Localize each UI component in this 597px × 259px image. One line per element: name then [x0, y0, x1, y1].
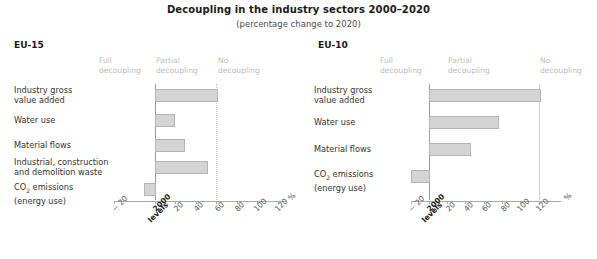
xtick-label-eu10-80: 80 — [499, 200, 512, 213]
panel-eu10: EU-10 Full decoupling Partial decoupling… — [300, 38, 597, 253]
zone-label-no-decoupling: No decoupling — [540, 56, 582, 75]
co2-text-pre: CO — [14, 182, 26, 192]
co2-text-pre: CO — [314, 169, 326, 179]
cat-label-eu15-waste: Industrial, construction and demolition … — [14, 157, 154, 177]
bar-eu10-industry-gross-value-added — [429, 89, 541, 102]
xtick-label-eu10-20: 20 — [444, 200, 457, 213]
cat-label-eu10-co2: CO2 emissions (energy use) — [314, 169, 429, 193]
chart-subtitle: (percentage change to 2020) — [0, 19, 597, 29]
chart-title: Decoupling in the industry sectors 2000–… — [0, 4, 597, 15]
zone-label-full-decoupling: Full decoupling — [380, 56, 422, 75]
xtick-label-eu15-40: 40 — [192, 200, 205, 213]
xtick-label-eu10-40: 40 — [462, 200, 475, 213]
cat-label-eu10-material: Material flows — [314, 144, 429, 154]
cat-label-eu15-material: Material flows — [14, 140, 144, 150]
xtick-label-eu15-20: 20 — [172, 200, 185, 213]
panel-eu10-xaxis: − 20 2000 levels 20 40 60 80 100 120 % — [300, 201, 597, 253]
cat-label-eu10-water: Water use — [314, 117, 429, 127]
bar-eu15-co2-emissions — [144, 183, 156, 196]
xtick-label-eu15-80: 80 — [233, 200, 246, 213]
cat-label-eu15-gva: Industry gross value added — [14, 85, 144, 105]
xtick-label-eu10-60: 60 — [480, 200, 493, 213]
zone-label-partial-decoupling: Partial decoupling — [156, 56, 198, 75]
panel-eu15-xaxis: − 20 2000 levels 20 40 60 80 100 120 % — [0, 201, 300, 253]
xtick-label-eu15-60: 60 — [213, 200, 226, 213]
bar-eu15-water-use — [155, 114, 175, 127]
cat-label-eu10-gva: Industry gross value added — [314, 85, 429, 105]
bar-eu15-construction-demolition-waste — [155, 161, 208, 174]
panel-eu15: EU-15 Full decoupling Partial decoupling… — [0, 38, 300, 253]
panel-eu15-title: EU-15 — [14, 40, 44, 50]
bar-eu10-material-flows — [429, 143, 471, 156]
panel-eu10-title: EU-10 — [318, 40, 348, 50]
bar-eu15-material-flows — [155, 139, 185, 152]
bar-eu10-water-use — [429, 116, 499, 129]
panel-eu10-plot: Industry gross value added Water use Mat… — [300, 84, 597, 204]
cat-label-eu15-water: Water use — [14, 115, 144, 125]
zone-label-no-decoupling: No decoupling — [218, 56, 260, 75]
panel-eu15-plot: Industry gross value added Water use Mat… — [0, 84, 300, 204]
bar-eu15-industry-gross-value-added — [155, 89, 218, 102]
zone-label-partial-decoupling: Partial decoupling — [448, 56, 490, 75]
decoupling-figure: Decoupling in the industry sectors 2000–… — [0, 0, 597, 259]
zone-label-full-decoupling: Full decoupling — [99, 56, 141, 75]
